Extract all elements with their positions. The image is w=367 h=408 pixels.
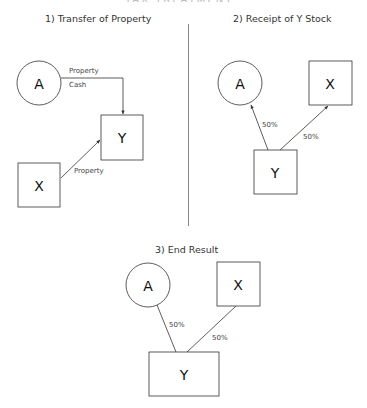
p1-node-x-label: X xyxy=(34,178,44,194)
p1-node-y-label: Y xyxy=(118,130,127,146)
p2-title: 2) Receipt of Y Stock xyxy=(233,13,332,24)
p2-node-y-label: Y xyxy=(271,165,280,181)
p3-node-a-label: A xyxy=(143,278,153,294)
p3-edge-label-x: 50% xyxy=(212,334,228,342)
p2-edge-label-a: 50% xyxy=(262,121,278,129)
p2-node-x-label: X xyxy=(325,76,335,92)
p2-edge-label-x: 50% xyxy=(303,133,319,141)
p3-title: 3) End Result xyxy=(155,244,218,255)
p1-title: 1) Transfer of Property xyxy=(45,13,151,24)
p3-edge-x-y xyxy=(187,306,236,352)
p2-node-a-label: A xyxy=(235,76,245,92)
p2-arrow-y-to-x xyxy=(280,106,328,150)
diagram-canvas xyxy=(0,0,367,408)
p1-edge-label-property: Property xyxy=(69,67,99,75)
p3-edge-label-a: 50% xyxy=(169,321,185,329)
p1-edge-label-x-property: Property xyxy=(74,167,104,175)
p3-node-x-label: X xyxy=(233,277,243,293)
p3-node-y-label: Y xyxy=(180,367,189,383)
p1-node-a-label: A xyxy=(34,76,44,92)
p1-edge-label-cash: Cash xyxy=(69,81,86,89)
